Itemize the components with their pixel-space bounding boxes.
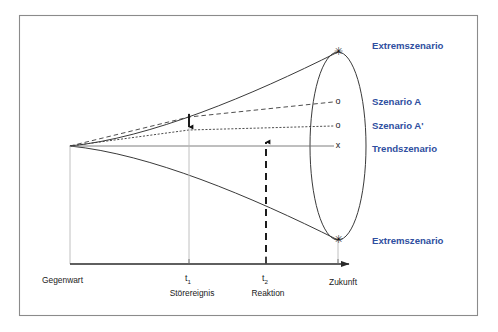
label-extremszenario-top: Extremszenario — [372, 40, 444, 51]
marker-trendszenario: x — [336, 140, 341, 150]
label-trendszenario: Trendszenario — [372, 143, 437, 154]
marker-szenario-a: o — [335, 96, 340, 106]
scenario-funnel-diagram: ✳ o o x ✳ Extremszenario Szenario A Szen… — [0, 0, 498, 332]
axis-label-gegenwart: Gegenwart — [42, 275, 84, 285]
marker-extremszenario-top: ✳ — [334, 45, 343, 57]
label-extremszenario-bottom: Extremszenario — [372, 235, 444, 246]
marker-extremszenario-bottom: ✳ — [334, 233, 343, 245]
marker-szenario-a-prime: o — [335, 120, 340, 130]
diagram-frame — [20, 16, 478, 316]
label-szenario-a: Szenario A — [372, 96, 421, 107]
axis-caption-stoerereignis: Störereignis — [170, 288, 215, 298]
axis-caption-reaktion: Reaktion — [251, 288, 284, 298]
label-szenario-a-prime: Szenario A' — [372, 120, 424, 131]
figure-root: ✳ o o x ✳ Extremszenario Szenario A Szen… — [0, 0, 498, 332]
axis-label-zukunft: Zukunft — [329, 277, 358, 287]
